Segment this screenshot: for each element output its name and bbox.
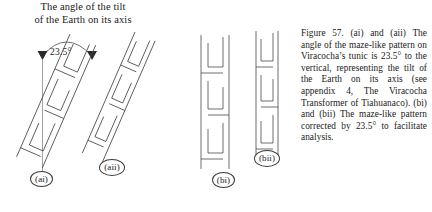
maze-pattern-ai bbox=[17, 34, 96, 168]
panel-tag-ai: (ai) bbox=[30, 171, 53, 187]
panel-tag-bi: (bi) bbox=[212, 172, 235, 188]
angle-arc bbox=[43, 42, 93, 56]
maze-pattern-bi bbox=[201, 35, 229, 169]
panel-tag-bii: (bii) bbox=[254, 150, 280, 167]
angle-arrow-right-icon bbox=[87, 51, 97, 60]
figure-caption: Figure 57. (ai) and (aii) The angle of t… bbox=[301, 28, 427, 144]
panel-tag-aii: (aii) bbox=[99, 159, 125, 176]
angle-arrow-left-icon bbox=[38, 51, 48, 60]
maze-pattern-bii bbox=[256, 31, 278, 163]
figure-page: The angle of the tilt of the Earth on it… bbox=[0, 0, 432, 212]
